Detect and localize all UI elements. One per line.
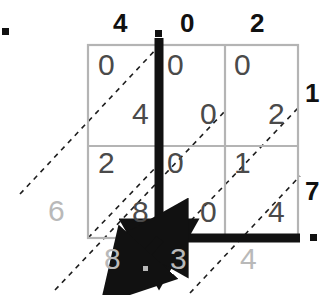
cell-r1c1-lower: 0	[200, 197, 217, 227]
result-decimal-point-dot	[143, 266, 148, 271]
cell-r0c2-lower: 2	[268, 99, 285, 129]
top-label-digit-1: 0	[180, 10, 194, 36]
right-decimal-point-dot	[310, 234, 317, 241]
cell-r1c0-lower: 8	[132, 197, 149, 227]
cell-r1c2-upper: 1	[234, 148, 251, 178]
cell-r1c1-upper: 0	[167, 148, 184, 178]
result-digit-bottom-0: 8	[104, 244, 121, 274]
result-digit-bottom-1: 3	[170, 244, 187, 274]
result-digit-bottom-2: 4	[240, 244, 257, 274]
cell-r0c1-lower: 0	[200, 99, 217, 129]
cell-r1c0-upper: 2	[98, 148, 115, 178]
lattice-multiplication-diagram: 4 0 2 1 7 0 4 0 0 0 2 2 8 0 0 1 4 6 8 3 …	[0, 0, 328, 295]
cell-r0c1-upper: 0	[167, 50, 184, 80]
right-label-digit-0: 1	[305, 80, 319, 106]
cell-r1c2-lower: 4	[268, 197, 285, 227]
cell-r0c2-upper: 0	[234, 50, 251, 80]
right-label-digit-1: 7	[305, 178, 319, 204]
lattice-graphics	[0, 0, 328, 295]
top-label-digit-2: 2	[250, 10, 264, 36]
lattice-outer-box	[88, 45, 298, 238]
result-digit-left: 6	[48, 196, 65, 226]
cell-r0c0-lower: 4	[132, 99, 149, 129]
cell-r0c0-upper: 0	[98, 50, 115, 80]
top-decimal-point-dot	[155, 30, 162, 37]
diagonal-out-arrow	[140, 239, 160, 261]
top-label-digit-0: 4	[113, 10, 127, 36]
corner-mark-dot	[2, 28, 9, 35]
lattice-grid	[88, 45, 298, 238]
